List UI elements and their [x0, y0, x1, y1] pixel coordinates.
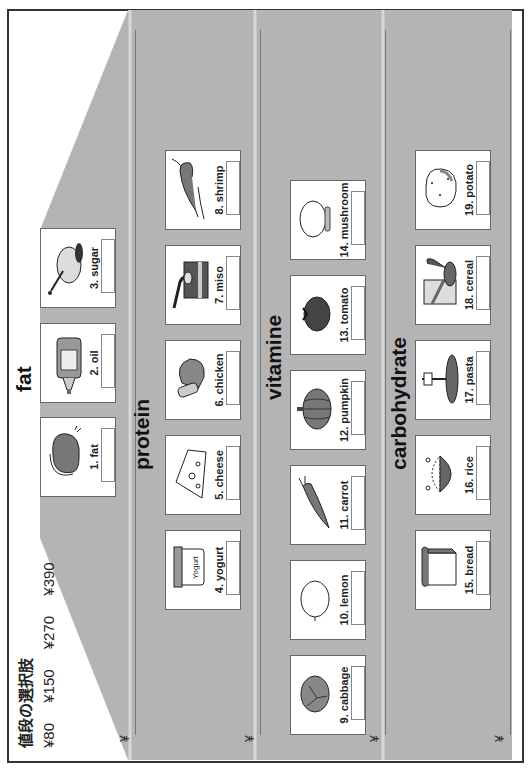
price-answer-box[interactable] — [226, 161, 240, 215]
fat-meat-icon — [43, 418, 87, 494]
food-card-bread: 15. bread — [415, 530, 491, 610]
price-option: ¥150 — [40, 669, 57, 702]
price-answer-box[interactable] — [351, 191, 365, 245]
miso-icon — [168, 246, 212, 322]
yen-mark: ¥ — [368, 735, 382, 742]
bread-icon — [418, 531, 462, 607]
food-label: 11. carrot — [338, 466, 350, 544]
food-card-chicken: 6. chicken — [165, 340, 241, 420]
price-answer-box[interactable] — [226, 256, 240, 310]
food-card-pasta: 17. pasta — [415, 340, 491, 420]
food-label: 13. tomato — [338, 276, 350, 354]
price-answer-box[interactable] — [226, 446, 240, 500]
food-label: 5. cheese — [213, 436, 225, 514]
food-card-mushroom: 14. mushroom — [290, 180, 366, 260]
food-card-cheese: 5. cheese — [165, 435, 241, 515]
price-answer-box[interactable] — [101, 334, 115, 388]
price-choices-title: 値段の選択肢 — [14, 658, 35, 748]
category-title-fat: fat — [12, 366, 36, 392]
price-answer-box[interactable] — [351, 571, 365, 625]
food-label: 4. yogurt — [213, 531, 225, 609]
price-answer-box[interactable] — [476, 256, 490, 310]
price-option: ¥80 — [40, 723, 57, 748]
food-card-tomato: 13. tomato — [290, 275, 366, 355]
category-title-protein: protein — [130, 399, 154, 470]
rice-bowl-icon — [418, 436, 462, 512]
cereal-icon — [418, 246, 462, 322]
food-card-yogurt: Yogurt 4. yogurt — [165, 530, 241, 610]
price-option: ¥390 — [40, 562, 57, 595]
answer-line[interactable] — [135, 30, 136, 735]
mushroom-icon — [293, 181, 337, 257]
yen-mark: ¥ — [118, 735, 132, 742]
food-label: 18. cereal — [463, 246, 475, 324]
price-choices-list: ¥80 ¥150 ¥270 ¥390 — [40, 546, 57, 748]
food-label: 6. chicken — [213, 341, 225, 419]
cheese-icon — [168, 436, 212, 512]
price-option: ¥270 — [40, 616, 57, 649]
price-answer-box[interactable] — [226, 351, 240, 405]
food-label: 1. fat — [88, 418, 100, 496]
price-answer-box[interactable] — [101, 239, 115, 293]
svg-text:Yogurt: Yogurt — [191, 555, 200, 579]
food-label: 8. shrimp — [213, 151, 225, 229]
oil-bottle-icon — [43, 324, 87, 400]
food-label: 12. pumpkin — [338, 371, 350, 449]
answer-line[interactable] — [385, 30, 386, 735]
price-answer-box[interactable] — [476, 351, 490, 405]
food-card-carrot: 11. carrot — [290, 465, 366, 545]
price-answer-box[interactable] — [351, 476, 365, 530]
food-label: 15. bread — [463, 531, 475, 609]
answer-line[interactable] — [510, 30, 511, 735]
food-card-rice: 16. rice — [415, 435, 491, 515]
food-card-pumpkin: 12. pumpkin — [290, 370, 366, 450]
pumpkin-icon — [293, 371, 337, 447]
category-title-vitamine: vitamine — [262, 315, 286, 400]
price-answer-box[interactable] — [351, 381, 365, 435]
food-card-cereal: 18. cereal — [415, 245, 491, 325]
price-answer-box[interactable] — [476, 541, 490, 595]
lemon-icon — [293, 561, 337, 637]
food-card-lemon: 10. lemon — [290, 560, 366, 640]
yen-mark: ¥ — [493, 735, 507, 742]
worksheet-rotated: 値段の選択肢 ¥80 ¥150 ¥270 ¥390 ¥ ¥ ¥ ¥ fat pr… — [0, 0, 532, 770]
potato-icon — [418, 151, 462, 227]
answer-line[interactable] — [260, 30, 261, 735]
food-card-sugar: 3. sugar — [40, 228, 116, 308]
food-label: 17. pasta — [463, 341, 475, 419]
food-label: 16. rice — [463, 436, 475, 514]
price-answer-box[interactable] — [351, 666, 365, 720]
price-answer-box[interactable] — [476, 161, 490, 215]
food-label: 10. lemon — [338, 561, 350, 639]
cabbage-icon — [293, 656, 337, 732]
price-answer-box[interactable] — [226, 541, 240, 595]
carrot-icon — [293, 466, 337, 542]
yogurt-icon: Yogurt — [168, 531, 212, 607]
food-card-cabbage: 9. cabbage — [290, 655, 366, 735]
pasta-icon — [418, 341, 462, 417]
food-label: 7. miso — [213, 246, 225, 324]
food-card-potato: 19. potato — [415, 150, 491, 230]
food-label: 19. potato — [463, 151, 475, 229]
food-card-shrimp: 8. shrimp — [165, 150, 241, 230]
chicken-leg-icon — [168, 341, 212, 417]
food-card-fat: 1. fat — [40, 417, 116, 497]
price-answer-box[interactable] — [351, 286, 365, 340]
yen-mark: ¥ — [243, 735, 257, 742]
food-label: 3. sugar — [88, 229, 100, 307]
price-answer-box[interactable] — [476, 446, 490, 500]
food-label: 14. mushroom — [338, 181, 350, 259]
sugar-pot-icon — [43, 229, 87, 305]
shrimp-icon — [168, 151, 212, 227]
price-answer-box[interactable] — [101, 428, 115, 482]
food-label: 2. oil — [88, 324, 100, 402]
food-label: 9. cabbage — [338, 656, 350, 734]
tomato-icon — [293, 276, 337, 352]
category-title-carbohydrate: carbohydrate — [387, 337, 411, 470]
food-card-oil: 2. oil — [40, 323, 116, 403]
food-card-miso: 7. miso — [165, 245, 241, 325]
